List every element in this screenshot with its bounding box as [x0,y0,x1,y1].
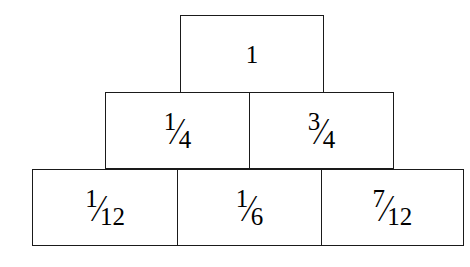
fraction-seven-twelfths: 7⁄12 [372,185,412,231]
fraction-pyramid-diagram: 1 1⁄4 3⁄4 1⁄12 1⁄6 7⁄12 [0,0,470,267]
cell-one-quarter: 1⁄4 [106,93,249,168]
pyramid-row-top: 1 [180,15,324,93]
fraction-three-quarters: 3⁄4 [308,108,335,154]
fraction-denominator: 6 [251,204,264,229]
pyramid-row-middle: 1⁄4 3⁄4 [105,92,394,169]
cell-one-twelfth: 1⁄12 [33,170,177,245]
fraction-one-sixth: 1⁄6 [236,185,263,231]
fraction-denominator: 4 [323,127,336,152]
whole-number-label: 1 [246,42,259,67]
cell-three-quarters: 3⁄4 [249,93,393,168]
fraction-denominator: 12 [100,204,125,229]
fraction-denominator: 12 [387,204,412,229]
fraction-one-quarter: 1⁄4 [164,108,191,154]
fraction-denominator: 4 [179,127,192,152]
cell-one-sixth: 1⁄6 [177,170,320,245]
cell-whole: 1 [181,16,323,92]
cell-seven-twelfths: 7⁄12 [321,170,463,245]
fraction-one-twelfth: 1⁄12 [85,185,125,231]
pyramid-row-bottom: 1⁄12 1⁄6 7⁄12 [32,169,464,246]
